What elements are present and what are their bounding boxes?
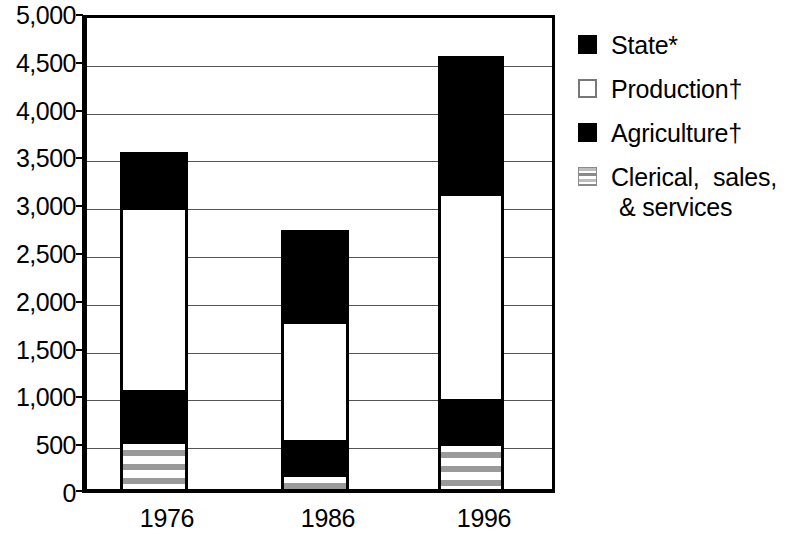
bar-segment-clerical[interactable] [281, 474, 349, 489]
bar-segment-clerical[interactable] [438, 443, 504, 489]
bar-segment-state[interactable] [120, 152, 188, 208]
checker-fill [441, 402, 501, 443]
bar-segment-production[interactable] [120, 207, 188, 390]
x-tick-label-1986: 1986 [246, 505, 410, 531]
legend-label-multiline: Clerical, sales,& services [611, 162, 777, 222]
legend-label-line2: & services [611, 192, 777, 222]
legend-label: Production† [611, 74, 742, 104]
legend-item-production[interactable]: Production† [578, 74, 810, 104]
y-tick-label: 2,000 [16, 289, 76, 314]
solid-black-swatch-icon [578, 35, 597, 54]
y-tick-label: 5,000 [16, 3, 76, 28]
bar-1976[interactable] [120, 152, 188, 489]
y-tick-label: 3,000 [16, 194, 76, 219]
bar-segment-production[interactable] [438, 193, 504, 400]
legend-label: State* [611, 30, 678, 60]
bar-segment-agriculture[interactable] [120, 390, 188, 442]
y-tick-label: 2,500 [16, 242, 76, 267]
legend-label: Agriculture† [611, 118, 742, 148]
bar-segment-clerical[interactable] [120, 441, 188, 489]
y-tick-label: 4,000 [16, 98, 76, 123]
bar-segment-state[interactable] [438, 56, 504, 193]
y-tick-label: 4,500 [16, 50, 76, 75]
stacked-bar-chart: 5,000 4,500 4,000 3,500 3,000 2,500 2,00… [0, 0, 810, 534]
striped-swatch-icon [578, 167, 597, 186]
legend: State* Production† Agriculture† Clerical… [578, 30, 810, 236]
y-tick-label: 500 [36, 433, 76, 458]
white-swatch-icon [578, 79, 597, 98]
legend-item-state[interactable]: State* [578, 30, 810, 60]
x-tick-label-1996: 1996 [402, 505, 566, 531]
y-tick-label: 0 [63, 481, 76, 506]
y-tick-label: 1,500 [16, 337, 76, 362]
bar-1986[interactable] [281, 230, 349, 489]
bar-segment-state[interactable] [281, 230, 349, 321]
y-tick-label: 3,500 [16, 146, 76, 171]
legend-item-clerical[interactable]: Clerical, sales,& services [578, 162, 810, 222]
bar-segment-production[interactable] [281, 321, 349, 441]
bar-segment-agriculture[interactable] [281, 440, 349, 474]
checker-fill [123, 393, 185, 442]
legend-label-line1: Clerical, sales, [611, 163, 777, 191]
legend-item-agriculture[interactable]: Agriculture† [578, 118, 810, 148]
y-tick-label: 1,000 [16, 385, 76, 410]
checkerboard-swatch-icon [578, 123, 597, 142]
bar-segment-agriculture[interactable] [438, 399, 504, 443]
checker-fill [284, 443, 346, 474]
plot-area [82, 15, 555, 493]
x-tick-label-1976: 1976 [85, 505, 249, 531]
y-axis: 5,000 4,500 4,000 3,500 3,000 2,500 2,00… [0, 0, 76, 534]
bar-1996[interactable] [438, 56, 504, 489]
